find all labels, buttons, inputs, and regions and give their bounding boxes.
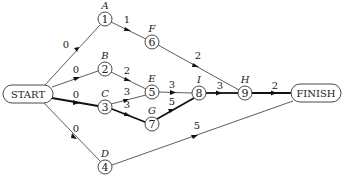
node-letter: I: [196, 74, 202, 85]
node-2: B 2: [98, 50, 112, 76]
edge-weight: 3: [124, 99, 130, 110]
node-number: 6: [149, 36, 156, 49]
node-number: 4: [102, 161, 109, 174]
node-letter: F: [148, 23, 157, 34]
node-3: C 3: [98, 88, 112, 114]
node-6: F 6: [145, 23, 159, 49]
edge-weight: 0: [73, 123, 79, 134]
edge-7-8: [157, 98, 194, 119]
node-letter: A: [100, 0, 108, 11]
edge-weight: 1: [124, 14, 130, 25]
node-letter: E: [147, 73, 156, 84]
arrow-icon: [216, 91, 222, 96]
node-number: 3: [102, 101, 109, 114]
start-node: START: [3, 85, 53, 103]
activity-network-diagram: 0 0 0 0 1 2 2 3 3 3 5 3 2 5: [0, 0, 342, 179]
edge-weight: 3: [169, 79, 175, 90]
arrow-icon: [74, 47, 79, 52]
node-5: E 5: [145, 73, 159, 99]
node-letter: H: [240, 74, 250, 85]
node-number: 2: [102, 63, 109, 76]
arrow-icon: [271, 91, 277, 96]
start-label: START: [11, 89, 46, 100]
node-4: D 4: [98, 148, 112, 174]
edge-weight: 0: [73, 64, 79, 75]
edge-weight: 5: [169, 96, 175, 107]
edge-start-1: [45, 25, 100, 85]
node-8: I 8: [192, 74, 206, 100]
arrow-icon: [192, 63, 199, 67]
edge-weight: 5: [194, 120, 200, 131]
node-number: 5: [149, 86, 156, 99]
arrow-icon: [124, 77, 131, 81]
arrow-icon: [124, 112, 131, 116]
node-number: 1: [102, 13, 109, 26]
node-letter: B: [100, 50, 108, 61]
arrow-icon: [124, 27, 131, 31]
node-9: H 9: [238, 74, 252, 100]
arrow-icon: [191, 135, 198, 139]
arrow-icon: [73, 77, 80, 81]
node-number: 9: [242, 87, 249, 100]
node-1: A 1: [98, 0, 112, 26]
node-number: 8: [196, 87, 203, 100]
node-number: 7: [149, 118, 156, 131]
edge-4-finish: [112, 101, 293, 165]
edge-weight: 2: [124, 65, 130, 76]
edge-weight: 2: [272, 80, 278, 91]
arrow-icon: [170, 90, 176, 95]
node-letter: C: [101, 88, 109, 99]
node-7: G 7: [145, 105, 159, 131]
finish-node: FINISH: [291, 84, 341, 102]
node-letter: D: [100, 148, 109, 159]
finish-label: FINISH: [296, 88, 335, 99]
edge-weight: 2: [195, 50, 201, 61]
edge-weight: 3: [124, 86, 130, 97]
edge-weight: 0: [63, 39, 69, 50]
edge-weight: 3: [217, 80, 223, 91]
edge-weight: 0: [73, 89, 79, 100]
node-letter: G: [148, 105, 156, 116]
